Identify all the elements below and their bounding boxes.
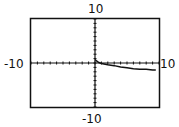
graph-window [0, 0, 179, 127]
